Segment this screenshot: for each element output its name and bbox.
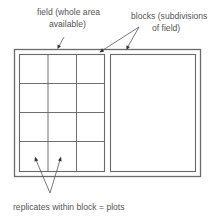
field-label-line2: available) [49,19,86,29]
field-diagram: field (whole area available) blocks (sub… [0,0,216,219]
field-label-line1: field (whole area [37,7,100,17]
blocks-label-line2: of field) [152,23,180,33]
block-right [111,55,196,172]
block-left [20,55,105,172]
plots-arrow-right [50,157,62,194]
plots-label: replicates within block = plots [13,202,125,212]
field-arrow [58,37,65,49]
blocks-arrow-left [100,27,140,53]
blocks-label-line1: blocks (subdivisions [131,11,207,21]
blocks-arrow-right [126,27,139,50]
